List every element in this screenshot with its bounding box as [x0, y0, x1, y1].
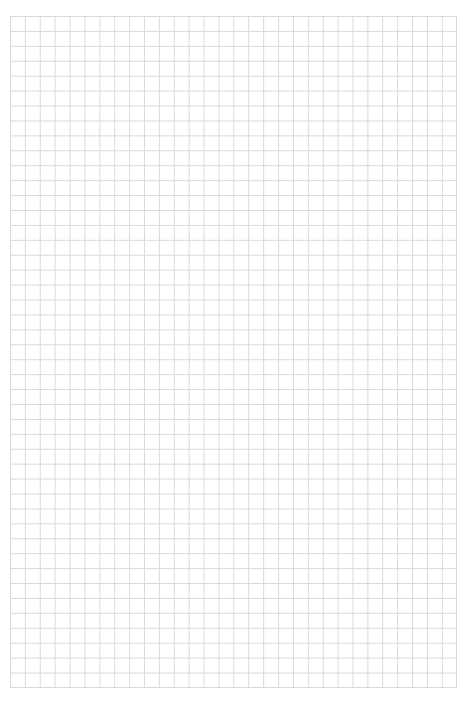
grid-area [10, 16, 457, 688]
grid-paper-page [0, 0, 469, 704]
